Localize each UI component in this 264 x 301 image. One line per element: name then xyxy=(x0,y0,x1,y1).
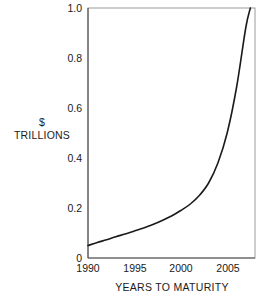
chart-figure: $TRILLIONS 1.0 0.8 0.6 0.4 0.2 0 1990 19… xyxy=(0,0,264,301)
data-line-series-1 xyxy=(88,8,250,246)
plot-area xyxy=(0,0,264,301)
plot-frame xyxy=(88,8,255,258)
